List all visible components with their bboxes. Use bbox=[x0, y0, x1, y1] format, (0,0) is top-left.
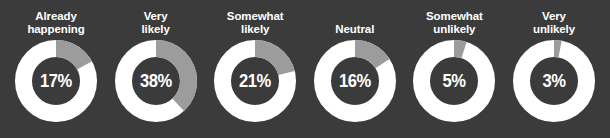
donut-label-line1: Very bbox=[144, 10, 168, 23]
donut-cell-somewhat-unlikely: Somewhat unlikely 5% bbox=[408, 0, 500, 138]
donut-chart-strip: Already happening 17% Very likely 38% So… bbox=[0, 0, 610, 138]
donut-label-line1: Somewhat bbox=[426, 10, 483, 23]
donut-label-somewhat-likely: Somewhat likely bbox=[209, 0, 301, 36]
donut-label-line2: likely bbox=[142, 23, 170, 36]
donut-value-label: 5% bbox=[417, 40, 492, 122]
donut-label-very-likely: Very likely bbox=[110, 0, 202, 36]
donut-value-label: 3% bbox=[516, 40, 591, 122]
donut-label-line2: unlikely bbox=[433, 23, 475, 36]
donut-cell-already-happening: Already happening 17% bbox=[10, 0, 102, 138]
donut-cell-somewhat-likely: Somewhat likely 21% bbox=[209, 0, 301, 138]
donut-cell-neutral: Neutral 16% bbox=[309, 0, 401, 138]
donut-value-label: 38% bbox=[118, 40, 193, 122]
donut-chart-very-likely: 38% bbox=[115, 40, 197, 122]
donut-label-very-unlikely: Very unlikely bbox=[508, 0, 600, 36]
donut-chart-very-unlikely: 3% bbox=[513, 40, 595, 122]
donut-chart-somewhat-unlikely: 5% bbox=[413, 40, 495, 122]
donut-value-label: 21% bbox=[217, 40, 292, 122]
donut-chart-neutral: 16% bbox=[314, 40, 396, 122]
donut-label-line1: Neutral bbox=[335, 23, 374, 36]
donut-label-line2: likely bbox=[241, 23, 269, 36]
donut-label-somewhat-unlikely: Somewhat unlikely bbox=[408, 0, 500, 36]
donut-label-line2: unlikely bbox=[533, 23, 575, 36]
donut-cell-very-unlikely: Very unlikely 3% bbox=[508, 0, 600, 138]
donut-label-line1: Somewhat bbox=[227, 10, 284, 23]
donut-label-neutral: Neutral bbox=[309, 0, 401, 36]
donut-label-line1: Already bbox=[35, 10, 77, 23]
donut-label-line2: happening bbox=[27, 23, 84, 36]
donut-cell-very-likely: Very likely 38% bbox=[110, 0, 202, 138]
donut-label-line1: Very bbox=[542, 10, 566, 23]
donut-value-label: 16% bbox=[317, 40, 392, 122]
donut-chart-somewhat-likely: 21% bbox=[214, 40, 296, 122]
donut-chart-already-happening: 17% bbox=[15, 40, 97, 122]
donut-label-already-happening: Already happening bbox=[10, 0, 102, 36]
donut-value-label: 17% bbox=[18, 40, 93, 122]
